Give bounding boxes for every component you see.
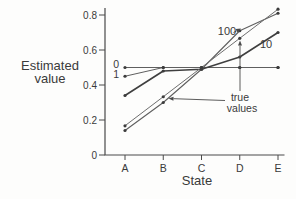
data-point-true-values (238, 37, 241, 40)
data-point-100 (162, 101, 165, 104)
axis-spine (105, 8, 285, 155)
series-label-10: 10 (260, 38, 272, 50)
y-axis-tick-label: 0 (91, 150, 97, 161)
x-axis-tick-label: A (121, 162, 128, 174)
data-point-0 (123, 66, 126, 69)
x-axis-tick-label: C (198, 162, 206, 174)
series-line-10 (125, 33, 278, 96)
annotation-arrow-true-values-b (173, 99, 225, 101)
series-label-100: 100 (218, 25, 236, 37)
data-point-10 (162, 69, 165, 72)
data-point-1 (162, 66, 165, 69)
data-point-1 (123, 75, 126, 78)
data-point-10 (123, 94, 126, 97)
chart-canvas: 00.20.40.60.8ABCDE Estimated value State… (0, 0, 296, 199)
figure-random-walk-estimates: 00.20.40.60.8ABCDE Estimated value State… (0, 0, 296, 199)
x-axis-tick-label: B (160, 162, 167, 174)
annotation-arrow-true-values-d-head (238, 41, 242, 46)
x-axis-tick-label: E (274, 162, 281, 174)
series-label-1: 1 (113, 68, 119, 80)
x-axis-title: State (182, 173, 212, 188)
data-point-100 (276, 12, 279, 15)
data-point-true-values (123, 124, 126, 127)
data-point-true-values (162, 95, 165, 98)
data-point-true-values (200, 66, 203, 69)
x-axis-tick-label: D (236, 162, 244, 174)
y-axis-tick-label: 0.2 (83, 115, 97, 126)
data-point-1 (276, 66, 279, 69)
y-axis-title-line2: value (34, 71, 65, 86)
y-axis-tick-label: 0.4 (83, 80, 97, 91)
true-values-label-line2: values (227, 102, 257, 114)
data-point-10 (276, 31, 279, 34)
data-point-true-values (276, 8, 279, 11)
data-point-100 (123, 129, 126, 132)
chart-generated-layer: 00.20.40.60.8ABCDE (83, 8, 281, 174)
y-axis-tick-label: 0.8 (83, 10, 97, 21)
y-axis-tick-label: 0.6 (83, 45, 97, 56)
